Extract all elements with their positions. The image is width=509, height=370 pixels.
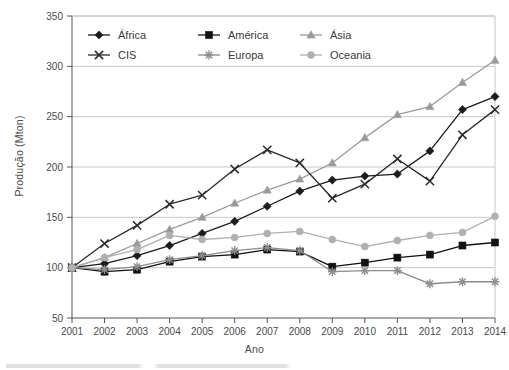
legend-entry-oceania[interactable]: Oceania (300, 49, 372, 61)
x-axis-ticks: 2001200220032004200520062007200820092010… (61, 318, 507, 337)
line-chart: 50100150200250300350 2001200220032004200… (0, 0, 509, 370)
data-point-square (426, 251, 433, 258)
data-point-diamond (328, 176, 336, 184)
y-tick-label: 300 (46, 61, 63, 72)
x-tick-label: 2011 (387, 326, 409, 337)
x-tick-label: 2014 (484, 326, 507, 337)
cropped-caption-strip (6, 364, 306, 368)
data-point-x (458, 131, 466, 139)
data-point-asterisk (328, 267, 337, 276)
legend-label: Ásia (330, 29, 352, 41)
data-point-x (198, 191, 206, 199)
data-point-square (492, 239, 499, 246)
data-point-x (100, 239, 108, 247)
data-point-square (361, 259, 368, 266)
legend-label: África (118, 29, 147, 41)
data-point-triangle (296, 175, 304, 182)
data-point-square (206, 32, 213, 39)
series-europa (68, 243, 500, 288)
data-point-circle (308, 52, 315, 59)
data-point-diamond (361, 172, 369, 180)
legend-entry-cis[interactable]: CIS (88, 49, 136, 61)
x-tick-label: 2007 (256, 326, 279, 337)
data-point-circle (329, 236, 336, 243)
data-point-circle (134, 246, 141, 253)
x-tick-label: 2009 (321, 326, 344, 337)
y-tick-label: 100 (46, 262, 63, 273)
data-point-circle (199, 236, 206, 243)
data-point-diamond (491, 92, 499, 100)
data-point-circle (394, 237, 401, 244)
data-point-asterisk (100, 265, 109, 274)
legend-label: Oceania (330, 49, 372, 61)
x-tick-label: 2002 (93, 326, 116, 337)
series-ásia (68, 56, 499, 271)
data-point-circle (101, 254, 108, 261)
data-point-asterisk (295, 246, 304, 255)
data-point-diamond (393, 170, 401, 178)
data-point-circle (492, 213, 499, 220)
data-point-diamond (95, 31, 103, 39)
legend-entry-américa[interactable]: América (198, 29, 269, 41)
legend-entry-europa[interactable]: Europa (198, 49, 264, 61)
x-tick-label: 2012 (419, 326, 442, 337)
data-point-diamond (296, 187, 304, 195)
series-layer (68, 56, 500, 288)
data-point-x (166, 200, 174, 208)
data-point-x (231, 165, 239, 173)
data-point-asterisk (205, 51, 214, 60)
data-point-triangle (361, 134, 369, 141)
data-point-asterisk (198, 251, 207, 260)
x-tick-label: 2013 (451, 326, 474, 337)
y-tick-label: 250 (46, 111, 63, 122)
data-point-x (263, 146, 271, 154)
data-point-triangle (458, 78, 466, 85)
data-point-triangle (328, 159, 336, 166)
data-point-circle (361, 243, 368, 250)
x-tick-label: 2001 (61, 326, 84, 337)
y-tick-label: 200 (46, 162, 63, 173)
legend-label: América (228, 29, 269, 41)
data-point-triangle (491, 56, 499, 63)
x-tick-label: 2003 (126, 326, 149, 337)
data-point-x (296, 159, 304, 167)
y-tick-label: 150 (46, 212, 63, 223)
data-point-diamond (166, 241, 174, 249)
data-point-x (328, 194, 336, 202)
data-point-square (394, 254, 401, 261)
y-tick-label: 350 (46, 11, 63, 22)
data-point-asterisk (360, 266, 369, 275)
data-point-x (133, 221, 141, 229)
data-point-circle (231, 234, 238, 241)
data-point-circle (296, 228, 303, 235)
data-point-asterisk (263, 243, 272, 252)
legend-label: CIS (118, 49, 136, 61)
data-point-asterisk (491, 277, 500, 286)
x-tick-label: 2010 (354, 326, 377, 337)
data-point-x (393, 155, 401, 163)
legend-entry-áfrica[interactable]: África (88, 29, 147, 41)
x-tick-label: 2005 (191, 326, 214, 337)
chart-figure: 50100150200250300350 2001200220032004200… (0, 0, 509, 370)
data-point-triangle (426, 102, 434, 109)
data-point-diamond (263, 202, 271, 210)
data-point-x (361, 180, 369, 188)
legend-label: Europa (228, 49, 264, 61)
y-axis-title: Produção (Mton) (13, 96, 25, 216)
data-point-asterisk (165, 255, 174, 264)
data-point-diamond (231, 217, 239, 225)
data-point-x (426, 177, 434, 185)
y-tick-label: 50 (52, 313, 64, 324)
chart-legend: ÁfricaAméricaÁsiaCISEuropaOceania (88, 29, 372, 61)
x-tick-label: 2008 (289, 326, 312, 337)
data-point-asterisk (458, 277, 467, 286)
data-point-asterisk (230, 246, 239, 255)
legend-entry-ásia[interactable]: Ásia (300, 29, 352, 41)
x-tick-label: 2006 (224, 326, 247, 337)
x-axis-title: Ano (0, 343, 509, 355)
data-point-circle (264, 230, 271, 237)
x-tick-label: 2004 (158, 326, 181, 337)
data-point-asterisk (426, 279, 435, 288)
y-axis-ticks: 50100150200250300350 (46, 11, 72, 324)
data-point-square (459, 242, 466, 249)
